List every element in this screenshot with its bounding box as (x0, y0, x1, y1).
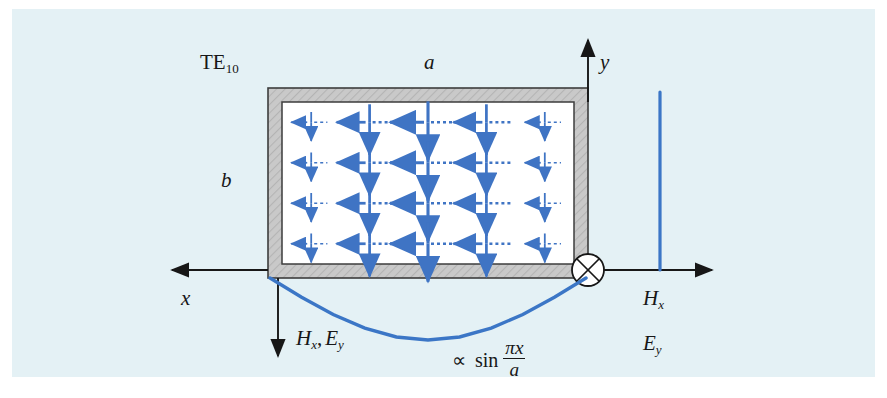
figure-root: TE10 a b y x Hx,Ey Hx Ey ∝sinπxa (0, 0, 887, 398)
amplitude-axis-label: Hx,Ey (296, 328, 344, 351)
sine-formula-label: ∝sinπxa (452, 338, 525, 379)
mode-label: TE10 (200, 52, 239, 75)
diagram-stage: TE10 a b y x Hx,Ey Hx Ey ∝sinπxa (0, 0, 887, 398)
right-ey-label: Ey (643, 333, 662, 356)
x-axis-label: x (181, 288, 190, 309)
diagram-svg (0, 0, 887, 398)
propagation-into-page-icon (572, 254, 604, 286)
y-axis-label: y (600, 52, 609, 73)
right-hx-label: Hx (643, 288, 664, 311)
height-label-b: b (221, 170, 232, 191)
width-label-a: a (424, 52, 435, 73)
